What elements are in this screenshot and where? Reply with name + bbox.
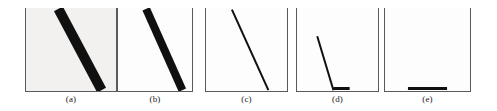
figure-panel-e: (e) <box>384 0 471 111</box>
figure-panel-c: (c) <box>205 0 288 111</box>
axis-right-b <box>192 8 193 92</box>
axis-bottom-a <box>25 91 117 92</box>
panel-label-e: (e) <box>384 94 471 105</box>
line-graphic-b <box>118 8 192 91</box>
diagonal-line-c <box>232 10 268 91</box>
line-graphic-c <box>206 8 287 91</box>
panel-label-b: (b) <box>117 94 193 105</box>
diagonal-line-b <box>146 9 182 90</box>
figure-root: (a) (b) (c) <box>0 0 497 111</box>
axis-bottom-c <box>205 91 288 92</box>
figure-panel-b: (b) <box>117 0 193 111</box>
panel-label-d: (d) <box>296 94 379 105</box>
plot-canvas-a <box>26 8 116 91</box>
plot-area-d <box>296 8 379 92</box>
axis-bottom-d <box>296 91 379 92</box>
figure-panel-d: (d) <box>296 0 379 111</box>
plot-area-a <box>25 8 117 92</box>
figure-panel-a: (a) <box>25 0 117 111</box>
line-graphic-a <box>26 8 116 91</box>
plot-canvas-e <box>385 8 470 91</box>
line-graphic-e <box>385 8 470 91</box>
axis-right-e <box>470 8 471 92</box>
axis-right-c <box>287 8 288 92</box>
panel-label-a: (a) <box>25 94 117 105</box>
diagonal-line-d <box>317 36 333 90</box>
plot-area-c <box>205 8 288 92</box>
plot-canvas-c <box>206 8 287 91</box>
axis-right-d <box>378 8 379 92</box>
plot-area-e <box>384 8 471 92</box>
line-graphic-d <box>297 8 378 91</box>
plot-area-b <box>117 8 193 92</box>
plot-canvas-d <box>297 8 378 91</box>
axis-bottom-e <box>384 91 471 92</box>
plot-canvas-b <box>118 8 192 91</box>
panel-label-c: (c) <box>205 94 288 105</box>
axis-bottom-b <box>117 91 193 92</box>
diagonal-line-a <box>58 9 101 90</box>
